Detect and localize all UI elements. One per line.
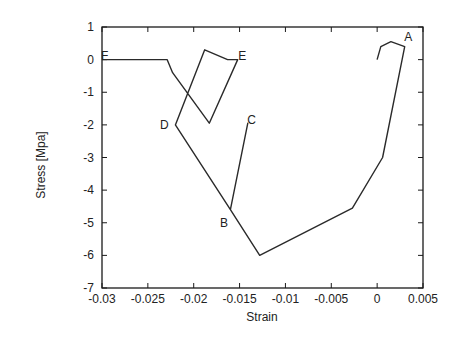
point-label-c: C <box>247 113 256 127</box>
y-tick-label: 1 <box>87 20 94 34</box>
x-tick-label: -0.025 <box>131 292 165 306</box>
x-tick-label: -0.02 <box>180 292 208 306</box>
y-axis-ticks: 10-1-2-3-4-5-6-7 <box>83 20 423 295</box>
y-tick-label: -7 <box>83 281 94 295</box>
point-label-e: E <box>238 49 246 63</box>
point-label-f: F <box>101 49 108 63</box>
y-tick-label: 0 <box>87 53 94 67</box>
plot-frame <box>102 27 423 288</box>
x-tick-label: -0.01 <box>272 292 300 306</box>
plot-border <box>102 27 423 288</box>
y-tick-label: -1 <box>83 85 94 99</box>
x-tick-label: -0.015 <box>223 292 257 306</box>
data-series <box>102 42 405 256</box>
x-tick-label: 0 <box>374 292 381 306</box>
point-label-d: D <box>160 118 169 132</box>
x-tick-label: -0.005 <box>314 292 348 306</box>
stress-strain-line <box>102 42 405 256</box>
stress-strain-chart: -0.03-0.025-0.02-0.015-0.01-0.00500.005 … <box>0 0 465 339</box>
y-tick-label: -6 <box>83 248 94 262</box>
y-tick-label: -2 <box>83 118 94 132</box>
x-axis-title: Strain <box>246 310 277 324</box>
x-tick-label: 0.005 <box>408 292 438 306</box>
y-axis-title: Stress [Mpa] <box>34 131 48 198</box>
point-label-a: A <box>404 30 412 44</box>
y-tick-label: -3 <box>83 151 94 165</box>
y-tick-label: -4 <box>83 183 94 197</box>
x-axis-ticks: -0.03-0.025-0.02-0.015-0.01-0.00500.005 <box>88 27 438 306</box>
y-tick-label: -5 <box>83 216 94 230</box>
point-label-b: B <box>220 216 228 230</box>
